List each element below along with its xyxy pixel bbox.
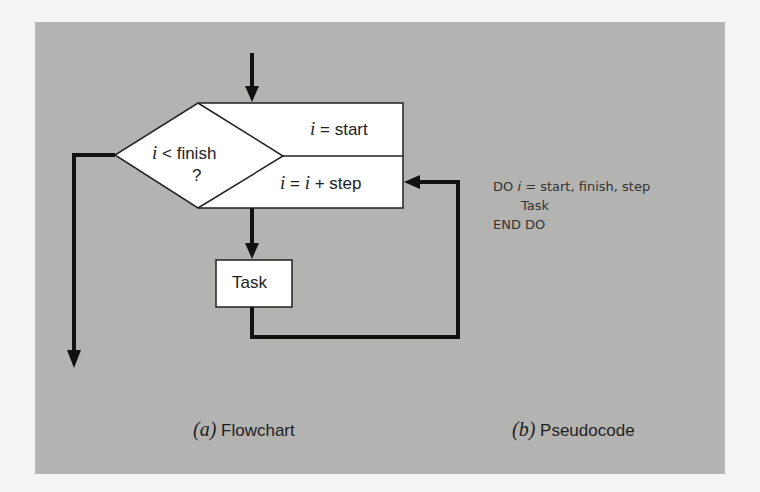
pseudocode-block: DO i = start, finish, step Task END DO bbox=[493, 177, 650, 234]
condition-question: ? bbox=[192, 166, 201, 186]
task-label: Task bbox=[232, 273, 267, 293]
pseudocode-line-1: DO i = start, finish, step bbox=[493, 177, 650, 196]
caption-pseudocode: (b) Pseudocode bbox=[512, 418, 635, 441]
flowchart-diagram bbox=[0, 0, 760, 492]
step-label: i = i + step bbox=[280, 172, 362, 194]
entry-arrow bbox=[245, 53, 259, 102]
condition-label: i < finish bbox=[152, 142, 216, 164]
pseudocode-line-3: END DO bbox=[493, 215, 650, 234]
caption-flowchart: (a) Flowchart bbox=[193, 418, 295, 441]
exit-arrow bbox=[67, 155, 115, 368]
pseudocode-line-2: Task bbox=[493, 196, 650, 215]
init-label: i = start bbox=[310, 118, 368, 140]
to-task-arrow bbox=[245, 208, 259, 259]
